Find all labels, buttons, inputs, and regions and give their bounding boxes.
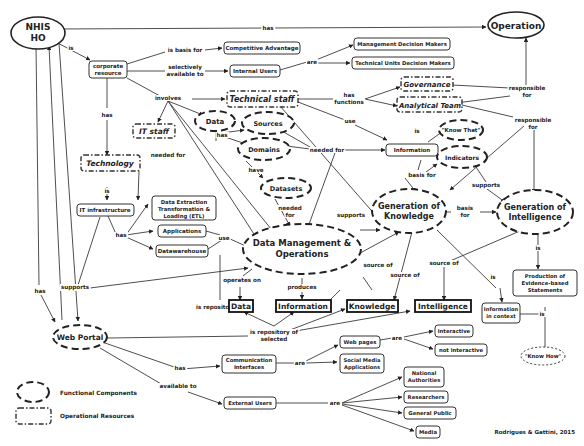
node-output-knowledge[interactable]: Knowledge xyxy=(347,300,398,312)
link-label: supports xyxy=(61,284,90,291)
node-web-portal[interactable]: Web Portal xyxy=(53,325,107,349)
node-label: Interfaces xyxy=(234,364,264,370)
node-label: "Know That" xyxy=(442,127,481,133)
node-output-data[interactable]: Data xyxy=(229,300,253,312)
edge xyxy=(49,46,62,320)
node-label: Knowledge xyxy=(349,302,396,311)
node-applications[interactable]: Applications xyxy=(158,225,206,237)
node-technical-units-decision-makers[interactable]: Technical Units Decision Makers xyxy=(352,57,454,69)
node-information[interactable]: Information xyxy=(386,144,438,156)
node-internal-users[interactable]: Internal Users xyxy=(230,65,280,77)
node-datawarehouse[interactable]: Datawarehouse xyxy=(156,245,208,257)
node-label: Competitive Advantage xyxy=(226,45,299,52)
edge xyxy=(316,45,353,60)
edge xyxy=(274,312,294,326)
node-technical-staff[interactable]: Technical staff xyxy=(227,91,298,107)
edge xyxy=(308,153,335,227)
link-label: for xyxy=(285,212,294,218)
link-label: has xyxy=(174,365,186,371)
node-indicators[interactable]: Indicators xyxy=(437,146,487,168)
node-label: Data xyxy=(206,118,225,126)
edge xyxy=(365,87,400,99)
edge xyxy=(306,362,337,363)
node-production-evidence-statements[interactable]: Production of Evidence-based Statements xyxy=(513,270,577,296)
link-label: is xyxy=(539,311,545,317)
link-label: supports xyxy=(337,212,366,219)
node-data-management-operations[interactable]: Data Management & Operations xyxy=(243,224,361,274)
node-datasets[interactable]: Datasets xyxy=(261,178,311,198)
node-communication-interfaces[interactable]: Communication Interfaces xyxy=(222,355,276,373)
node-researchers[interactable]: Researchers xyxy=(404,391,448,403)
node-corporate-resource[interactable]: corporate resource xyxy=(89,61,127,78)
node-label: Information xyxy=(394,147,431,153)
edge xyxy=(205,48,222,50)
credit-text: Rodrigues & Gattini, 2015 xyxy=(494,429,575,436)
node-label: Technical Units Decision Makers xyxy=(355,60,451,66)
link-label: produces xyxy=(287,284,317,291)
node-label: interactive xyxy=(438,328,471,334)
edge xyxy=(365,99,397,106)
legend-functional-symbol xyxy=(17,382,49,402)
node-national-authorities[interactable]: National Authorities xyxy=(404,367,444,387)
node-domains[interactable]: Domains xyxy=(238,138,290,160)
node-data-component[interactable]: Data xyxy=(195,111,235,131)
node-know-how[interactable]: "Know How" xyxy=(521,347,565,365)
node-web-pages[interactable]: Web pages xyxy=(340,336,380,348)
link-label: responsible xyxy=(509,85,546,92)
node-sources[interactable]: Sources xyxy=(242,112,294,134)
edge xyxy=(394,232,412,300)
edge xyxy=(306,345,338,361)
node-information-in-context[interactable]: Information in context xyxy=(482,303,520,323)
edge xyxy=(404,339,433,349)
node-not-interactive[interactable]: not interactive xyxy=(435,344,487,356)
edge xyxy=(456,96,510,103)
link-label: have xyxy=(248,167,263,173)
link-label: use xyxy=(218,235,229,241)
edge xyxy=(355,125,387,140)
link-label: is xyxy=(68,45,74,51)
edge xyxy=(244,312,274,326)
node-generation-of-knowledge[interactable]: Generation of Knowledge xyxy=(372,189,446,233)
node-output-intelligence[interactable]: Intelligence xyxy=(415,300,471,312)
node-label: Intelligence xyxy=(508,213,562,222)
node-external-users[interactable]: External Users xyxy=(224,397,276,409)
edge xyxy=(342,377,402,403)
legend-operational-symbol xyxy=(16,408,51,424)
edge xyxy=(126,231,153,235)
node-media[interactable]: Media xyxy=(416,426,440,438)
node-general-public[interactable]: General Public xyxy=(404,407,456,419)
node-nhis-ho[interactable]: NHIS HO xyxy=(11,17,65,49)
node-label: Operations xyxy=(276,249,329,259)
edge xyxy=(208,240,222,249)
node-etl[interactable]: Data Extraction Transformation & Loading… xyxy=(152,196,216,220)
node-interactive[interactable]: interactive xyxy=(435,325,473,337)
node-management-decision-makers[interactable]: Management Decision Makers xyxy=(354,38,450,50)
node-label: Applications xyxy=(163,228,202,235)
node-generation-of-intelligence[interactable]: Generation of Intelligence xyxy=(497,190,573,234)
link-label: are xyxy=(392,335,403,341)
edge xyxy=(342,405,414,431)
node-governance[interactable]: Governance xyxy=(401,77,453,91)
node-competitive-advantage[interactable]: Competitive Advantage xyxy=(224,42,300,54)
edge xyxy=(476,167,486,182)
node-label: Internal Users xyxy=(233,68,278,74)
edge xyxy=(342,397,402,403)
link-label: are xyxy=(295,360,306,366)
link-label: responsible xyxy=(515,117,552,124)
node-operation[interactable]: Operation xyxy=(488,12,544,38)
node-social-media-applications[interactable]: Social Media Applications xyxy=(340,354,384,373)
node-label: resource xyxy=(94,70,121,76)
node-technology[interactable]: Technology xyxy=(81,155,140,171)
node-label: Statements xyxy=(528,287,563,293)
node-it-infrastructure[interactable]: IT infrastructure xyxy=(77,204,134,216)
link-label: source of xyxy=(363,262,393,268)
link-label: is xyxy=(490,274,496,280)
edge xyxy=(330,290,340,300)
edge xyxy=(404,331,433,337)
edge xyxy=(487,189,505,202)
node-label: Governance xyxy=(404,81,451,89)
node-output-information[interactable]: Information xyxy=(276,300,331,312)
node-analytical-team[interactable]: Analytical Team xyxy=(397,97,462,112)
node-know-that[interactable]: "Know That" xyxy=(439,120,483,140)
node-it-staff[interactable]: IT staff xyxy=(133,124,175,138)
